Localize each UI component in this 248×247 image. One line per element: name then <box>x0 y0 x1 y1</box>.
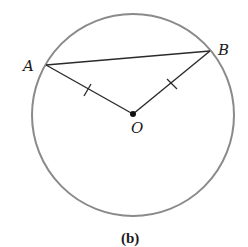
point-label-o: O <box>131 119 143 137</box>
radius-ob <box>133 51 210 114</box>
circle-diagram: A B O (b) <box>0 0 248 247</box>
point-label-b: B <box>217 41 229 59</box>
figure-caption: (b) <box>121 230 139 247</box>
tick-mark-ob <box>167 79 177 89</box>
chord-ab <box>46 51 210 65</box>
point-label-a: A <box>21 57 34 75</box>
center-point-o <box>130 111 136 117</box>
radius-oa <box>46 65 133 114</box>
